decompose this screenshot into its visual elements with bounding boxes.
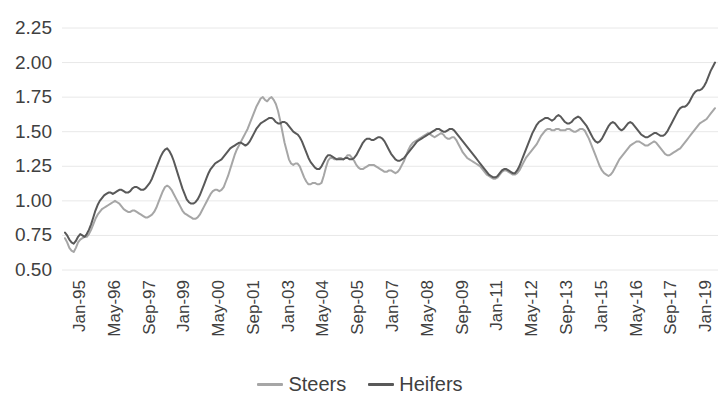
x-axis-tick-text: Sep-01 <box>245 280 262 335</box>
x-axis-tick-text: Sep-13 <box>558 280 575 335</box>
y-axis-tick-label: 1.75 <box>15 87 52 106</box>
x-axis-tick-text: Jan-19 <box>697 280 714 332</box>
y-axis-tick-label: 1.50 <box>15 122 52 141</box>
x-axis-tick-text: Jan-07 <box>384 280 401 332</box>
x-axis-tick-label: Sep-09 <box>454 280 471 335</box>
y-axis-tick-label: 1.00 <box>15 191 52 210</box>
legend-item-heifers[interactable]: Heifers <box>368 374 462 394</box>
x-axis-tick-text: Sep-17 <box>662 280 679 335</box>
x-axis-tick-label: Sep-97 <box>141 280 158 335</box>
x-axis-tick-label: Jan-11 <box>488 280 505 331</box>
line-chart-svg <box>62 0 718 280</box>
x-axis-tick-text: Jan-95 <box>71 280 88 332</box>
y-axis: 0.500.751.001.251.501.752.002.25 <box>0 0 60 290</box>
x-axis-tick-text: Jan-99 <box>175 280 192 332</box>
legend-label: Heifers <box>399 374 462 394</box>
x-axis-tick-text: Jan-15 <box>593 280 610 332</box>
x-axis-tick-label: May-04 <box>314 280 331 337</box>
x-axis-tick-label: Jan-07 <box>384 280 401 332</box>
legend-line-swatch-icon <box>368 383 394 386</box>
x-axis-tick-text: Jan-11 <box>488 280 505 331</box>
x-axis-tick-label: May-00 <box>210 280 227 337</box>
legend-item-steers[interactable]: Steers <box>257 374 346 394</box>
y-axis-tick-label: 0.75 <box>15 225 52 244</box>
y-axis-tick-label: 1.25 <box>15 156 52 175</box>
x-axis-tick-label: Jan-03 <box>280 280 297 332</box>
y-axis-tick-label: 2.25 <box>15 18 52 37</box>
series-lines <box>65 63 715 252</box>
y-axis-tick-label: 2.00 <box>15 53 52 72</box>
chart-legend: SteersHeifers <box>0 364 720 404</box>
x-axis-tick-text: Sep-97 <box>141 280 158 335</box>
series-line-steers <box>65 97 715 252</box>
x-axis-tick-label: Jan-15 <box>593 280 610 332</box>
x-axis-tick-label: Sep-01 <box>245 280 262 335</box>
x-axis-tick-text: May-16 <box>628 280 645 337</box>
x-axis-tick-label: Sep-17 <box>662 280 679 335</box>
x-axis: Jan-95May-96Sep-97Jan-99May-00Sep-01Jan-… <box>62 280 718 360</box>
x-axis-tick-text: Sep-05 <box>349 280 366 335</box>
y-axis-tick-label: 0.50 <box>15 260 52 279</box>
series-line-heifers <box>65 63 715 244</box>
x-axis-tick-text: May-08 <box>419 280 436 337</box>
x-axis-tick-label: May-08 <box>419 280 436 337</box>
x-axis-tick-text: May-96 <box>106 280 123 337</box>
gridlines <box>62 28 718 270</box>
x-axis-tick-text: May-04 <box>314 280 331 337</box>
x-axis-tick-text: May-12 <box>523 280 540 337</box>
x-axis-tick-label: May-16 <box>628 280 645 337</box>
legend-label: Steers <box>288 374 346 394</box>
plot-area <box>62 0 718 280</box>
x-axis-tick-label: Jan-95 <box>71 280 88 332</box>
x-axis-tick-label: May-12 <box>523 280 540 337</box>
x-axis-tick-label: Jan-99 <box>175 280 192 332</box>
x-axis-tick-label: Sep-13 <box>558 280 575 335</box>
x-axis-tick-text: May-00 <box>210 280 227 337</box>
x-axis-tick-label: May-96 <box>106 280 123 337</box>
x-axis-tick-label: Jan-19 <box>697 280 714 332</box>
chart-container: 0.500.751.001.251.501.752.002.25 Jan-95M… <box>0 0 720 408</box>
legend-line-swatch-icon <box>257 383 283 386</box>
x-axis-tick-label: Sep-05 <box>349 280 366 335</box>
x-axis-tick-text: Jan-03 <box>280 280 297 332</box>
x-axis-tick-text: Sep-09 <box>454 280 471 335</box>
